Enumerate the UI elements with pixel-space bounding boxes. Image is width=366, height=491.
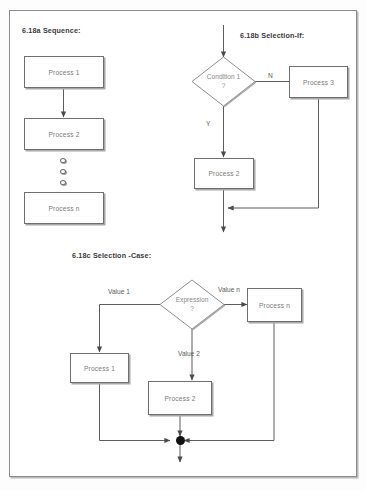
edge-label-value-1: Value 1 [108,288,130,295]
sequence-process-2-label: Process 2 [48,131,79,138]
selection-if-process-2-label: Process 2 [208,170,239,177]
edge-label-no: N [268,72,273,79]
sequence-process-1-box: Process 1 [24,56,104,88]
expression-text-line2: ? [163,305,221,314]
selection-case-process-n-label: Process n [259,302,290,309]
selection-case-process-1-label: Process 1 [84,365,115,372]
edge-label-value-2: Value 2 [178,350,200,357]
edge-label-value-n: Value n [218,286,240,293]
ellipsis-dot-1 [60,158,66,163]
selection-if-process-3-box: Process 3 [289,66,348,98]
ellipsis-dot-3 [60,180,66,185]
selection-if-connectors [224,25,319,232]
section-label-selection-if: 6.18b Selection-If: [240,31,304,40]
selection-case-process-1-box: Process 1 [70,353,129,383]
expression-text: Expression ? [163,296,221,313]
sequence-process-n-box: Process n [24,192,104,224]
selection-if-process-3-label: Process 3 [303,79,334,86]
sequence-process-1-label: Process 1 [48,69,79,76]
scanned-page: 6.18a Sequence: Process 1 Process 2 Proc… [0,0,366,491]
condition-1-text-line2: ? [193,82,254,91]
selection-case-process-2-box: Process 2 [148,381,212,415]
edge-label-yes: Y [206,120,210,127]
condition-1-text-line1: Condition 1 [193,73,254,82]
sequence-process-2-box: Process 2 [24,118,104,150]
section-label-selection-case: 6.18c Selection -Case: [72,251,151,260]
expression-text-line1: Expression [163,296,221,305]
selection-case-process-2-label: Process 2 [164,395,195,402]
merge-junction-dot [176,436,185,445]
section-label-sequence: 6.18a Sequence: [22,26,81,35]
selection-if-process-2-box: Process 2 [194,158,254,189]
condition-1-text: Condition 1 ? [193,73,254,90]
sequence-process-n-label: Process n [48,205,79,212]
selection-case-process-n-box: Process n [247,288,302,322]
ellipsis-dot-2 [60,169,66,174]
